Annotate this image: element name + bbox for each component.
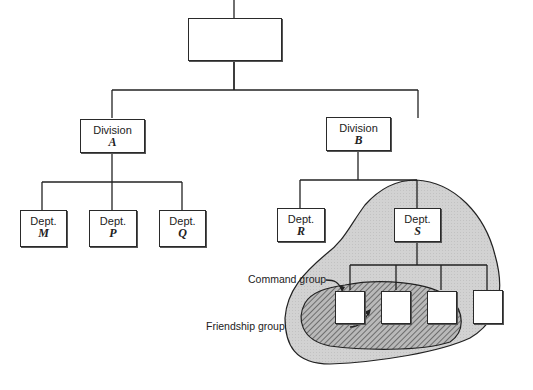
dept-q-letter: Q — [160, 227, 205, 240]
division-a-letter: A — [81, 136, 144, 149]
dept-p-letter: P — [90, 227, 136, 240]
top-executive-box — [188, 18, 282, 61]
dept-r-letter: R — [278, 225, 324, 238]
dept-m-box: Dept. M — [20, 210, 67, 247]
subordinate-box-4 — [473, 290, 503, 324]
friendship-group-label: Friendship group — [206, 320, 285, 332]
division-b-letter: B — [327, 134, 390, 147]
dept-s-box: Dept. S — [394, 208, 441, 242]
subordinate-box-3 — [427, 291, 457, 324]
dept-q-box: Dept. Q — [159, 210, 206, 247]
dept-r-box: Dept. R — [277, 208, 325, 242]
subordinate-box-1 — [335, 291, 365, 324]
dept-m-letter: M — [21, 227, 66, 240]
command-group-label: Command group — [248, 273, 326, 285]
org-chart-diagram: Division A Division B Dept. M Dept. P De… — [0, 0, 533, 390]
dept-s-letter: S — [395, 225, 440, 238]
subordinate-box-2 — [381, 291, 411, 324]
division-a-box: Division A — [80, 119, 145, 153]
dept-p-box: Dept. P — [89, 210, 137, 247]
division-b-box: Division B — [326, 117, 391, 151]
